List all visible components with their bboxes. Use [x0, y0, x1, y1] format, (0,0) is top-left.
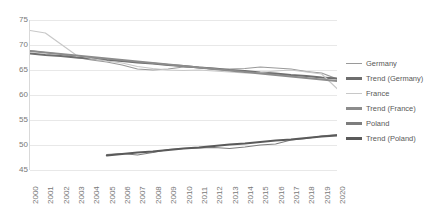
x-tick-2011: 2011 — [194, 171, 204, 207]
x-tick-2014: 2014 — [240, 171, 250, 207]
x-tick-2015: 2015 — [255, 171, 265, 207]
y-tick-label: 55 — [6, 116, 28, 124]
x-tick-2005: 2005 — [102, 171, 112, 207]
x-tick-2001: 2001 — [40, 171, 50, 207]
x-tick-2012: 2012 — [209, 171, 219, 207]
x-tick-label: 2005 — [109, 186, 117, 204]
x-tick-2003: 2003 — [71, 171, 81, 207]
x-tick-2016: 2016 — [271, 171, 281, 207]
y-tick-label: 70 — [6, 41, 28, 49]
legend-label: Trend (Poland) — [366, 135, 416, 143]
series-lines — [30, 20, 337, 170]
x-tick-label: 2018 — [308, 186, 316, 204]
y-axis: 75706560555045 — [0, 0, 28, 190]
x-tick-label: 2016 — [278, 186, 286, 204]
x-tick-2010: 2010 — [179, 171, 189, 207]
x-tick-label: 2001 — [47, 186, 55, 204]
series-line-trend-france — [30, 51, 337, 81]
legend-swatch-icon — [346, 137, 362, 139]
x-tick-2008: 2008 — [148, 171, 158, 207]
x-tick-label: 2010 — [186, 186, 194, 204]
x-tick-label: 2013 — [232, 186, 240, 204]
legend-label: Poland — [366, 120, 389, 128]
y-tick-label: 75 — [6, 16, 28, 24]
legend-label: Germany — [366, 60, 397, 68]
x-axis: 2000200120022003200420052006200720082009… — [30, 171, 337, 208]
legend-label: Trend (France) — [366, 105, 416, 113]
x-tick-label: 2000 — [32, 186, 40, 204]
x-tick-label: 2019 — [324, 186, 332, 204]
x-tick-2017: 2017 — [286, 171, 296, 207]
x-tick-2018: 2018 — [301, 171, 311, 207]
legend-swatch-icon — [346, 107, 362, 109]
y-tick-label: 50 — [6, 141, 28, 149]
chart-container: 75706560555045 2000200120022003200420052… — [0, 0, 437, 208]
x-tick-2002: 2002 — [56, 171, 66, 207]
legend-item-trend-poland[interactable]: Trend (Poland) — [346, 131, 437, 146]
x-tick-label: 2004 — [93, 186, 101, 204]
x-tick-label: 2002 — [63, 186, 71, 204]
x-tick-label: 2003 — [78, 186, 86, 204]
series-line-trend-poland — [107, 136, 337, 156]
legend-item-trend-germany[interactable]: Trend (Germany) — [346, 71, 437, 86]
legend-item-france[interactable]: France — [346, 86, 437, 101]
x-tick-label: 2011 — [201, 187, 209, 204]
x-tick-label: 2014 — [247, 186, 255, 204]
chart-legend: GermanyTrend (Germany)FranceTrend (Franc… — [346, 56, 437, 146]
x-tick-2006: 2006 — [117, 171, 127, 207]
y-tick-label: 65 — [6, 66, 28, 74]
x-tick-label: 2020 — [339, 186, 347, 204]
x-tick-label: 2015 — [262, 186, 270, 204]
x-tick-2009: 2009 — [163, 171, 173, 207]
legend-swatch-icon — [346, 122, 362, 124]
x-tick-2013: 2013 — [225, 171, 235, 207]
x-tick-label: 2012 — [216, 186, 224, 204]
x-tick-label: 2006 — [124, 186, 132, 204]
legend-label: France — [366, 90, 389, 98]
y-tick-label: 60 — [6, 91, 28, 99]
x-tick-label: 2008 — [155, 186, 163, 204]
x-tick-label: 2009 — [170, 186, 178, 204]
legend-swatch-icon — [346, 77, 362, 79]
plot-area — [30, 20, 337, 170]
x-tick-2007: 2007 — [132, 171, 142, 207]
x-tick-2004: 2004 — [86, 171, 96, 207]
x-tick-2020: 2020 — [332, 171, 342, 207]
legend-item-poland[interactable]: Poland — [346, 116, 437, 131]
x-tick-2000: 2000 — [25, 171, 35, 207]
legend-swatch-icon — [346, 93, 362, 94]
series-line-france — [30, 31, 337, 89]
legend-item-germany[interactable]: Germany — [346, 56, 437, 71]
x-tick-2019: 2019 — [317, 171, 327, 207]
legend-item-trend-france[interactable]: Trend (France) — [346, 101, 437, 116]
legend-swatch-icon — [346, 63, 362, 64]
legend-label: Trend (Germany) — [366, 75, 423, 83]
x-tick-label: 2017 — [293, 186, 301, 204]
x-tick-label: 2007 — [139, 186, 147, 204]
